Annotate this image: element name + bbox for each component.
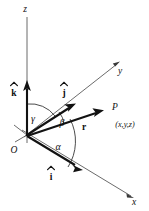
- x-axis-label: x: [131, 197, 137, 207]
- x-axis-line: [22, 130, 131, 196]
- i-unit-vector-shaft: [27, 136, 75, 165]
- origin-label: O: [11, 145, 18, 155]
- i-unit-vector-hat-accent: [48, 166, 55, 169]
- point-p-label: P: [111, 102, 118, 112]
- r-position-vector-label: r: [82, 122, 87, 132]
- vector-diagram-figure: z y x k j i r P (x,y,z) O γ β α: [0, 0, 149, 211]
- j-unit-vector-label: j: [61, 88, 65, 98]
- i-unit-vector-label: i: [50, 172, 53, 182]
- j-unit-vector-hat-accent: [61, 82, 68, 85]
- y-axis-label: y: [117, 66, 123, 76]
- k-unit-vector-hat-accent: [11, 82, 18, 85]
- coordinate-system-svg: z y x k j i r P (x,y,z) O γ β α: [0, 0, 149, 211]
- x-axis-back-stub: [14, 125, 27, 135]
- y-axis-line: [24, 64, 117, 137]
- y-axis-back-stub: [15, 135, 27, 142]
- beta-angle-label: β: [59, 117, 65, 128]
- alpha-angle-arc: [68, 119, 75, 167]
- alpha-angle-label: α: [55, 141, 61, 152]
- z-axis-label: z: [22, 4, 27, 14]
- gamma-angle-label: γ: [31, 113, 36, 124]
- point-p-coordinates-label: (x,y,z): [115, 120, 135, 129]
- k-unit-vector-label: k: [11, 88, 17, 98]
